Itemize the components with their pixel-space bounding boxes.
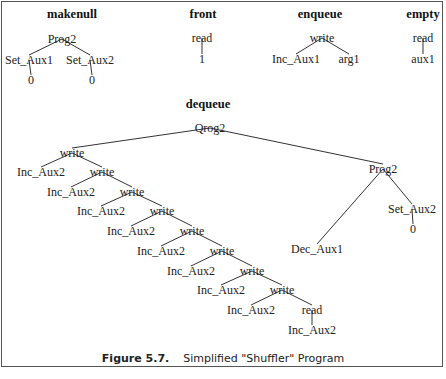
- tree-diagram: makenullProg2Set_Aux1Set_Aux200frontread…: [0, 0, 446, 379]
- tree-node: Set_Aux1: [5, 53, 53, 67]
- figure-number: Figure 5.7.: [102, 352, 169, 365]
- tree-makenull: makenullProg2Set_Aux1Set_Aux200: [5, 7, 114, 87]
- tree-node: Inc_Aux2: [47, 185, 95, 199]
- tree-front: frontread1: [190, 7, 218, 66]
- tree-node: Inc_Aux2: [227, 303, 275, 317]
- tree-node: Inc_Aux2: [288, 323, 336, 337]
- tree-node: read: [192, 31, 213, 45]
- tree-node: write: [90, 165, 115, 179]
- tree-edge: [210, 128, 383, 164]
- tree-header: empty: [406, 7, 440, 21]
- tree-node: Qrog2: [195, 121, 226, 135]
- tree-node: read: [413, 31, 434, 45]
- tree-header: makenull: [47, 7, 98, 21]
- tree-node: Set_Aux2: [388, 202, 436, 216]
- tree-node: write: [180, 224, 205, 238]
- tree-node: Inc_Aux2: [107, 224, 155, 238]
- tree-node: 1: [199, 52, 205, 66]
- tree-node: Dec_Aux1: [291, 242, 343, 256]
- tree-header: dequeue: [186, 97, 231, 111]
- tree-node: Prog2: [48, 32, 77, 46]
- tree-empty: emptyreadaux1: [406, 7, 440, 66]
- figure-title: Simplified "Shuffler" Program: [183, 352, 344, 365]
- tree-node: Inc_Aux2: [197, 283, 245, 297]
- tree-node: write: [270, 283, 295, 297]
- tree-node: Inc_Aux2: [137, 244, 185, 258]
- tree-node: read: [302, 303, 323, 317]
- tree-node: Inc_Aux2: [167, 264, 215, 278]
- tree-node: write: [240, 264, 265, 278]
- tree-node: write: [210, 244, 235, 258]
- tree-enqueue: enqueuewriteInc_Aux1arg1: [272, 7, 360, 66]
- tree-node: Prog2: [369, 162, 398, 176]
- tree-node: 0: [410, 222, 416, 236]
- tree-node: Inc_Aux2: [17, 165, 65, 179]
- figure-caption: Figure 5.7.Simplified "Shuffler" Program: [0, 352, 446, 365]
- tree-node: Inc_Aux1: [272, 52, 320, 66]
- tree-node: write: [60, 146, 85, 160]
- tree-node: arg1: [338, 52, 359, 66]
- tree-edge: [72, 128, 210, 148]
- tree-node: write: [120, 185, 145, 199]
- tree-node: 0: [28, 73, 34, 87]
- tree-header: enqueue: [298, 7, 343, 21]
- tree-node: 0: [89, 73, 95, 87]
- tree-dequeue: dequeueQrog2writeInc_Aux2writeInc_Aux2wr…: [17, 97, 436, 337]
- tree-node: aux1: [411, 52, 434, 66]
- tree-node: write: [310, 31, 335, 45]
- tree-header: front: [190, 7, 218, 21]
- tree-node: Inc_Aux2: [77, 204, 125, 218]
- tree-node: Set_Aux2: [66, 53, 114, 67]
- tree-node: write: [150, 204, 175, 218]
- tree-edge: [317, 169, 383, 244]
